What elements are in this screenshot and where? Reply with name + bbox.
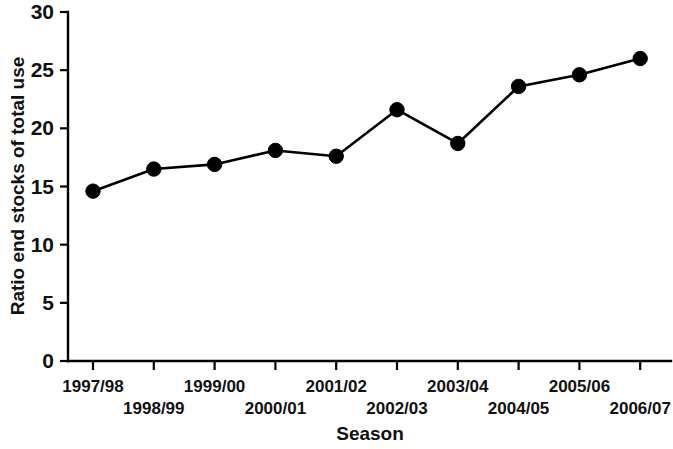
x-axis-title: Season: [336, 423, 404, 444]
y-axis-tick-label: 0: [42, 349, 54, 372]
x-axis-tick-group: [93, 361, 640, 370]
data-point: [390, 103, 404, 117]
x-axis-tick-label: 2004/05: [488, 399, 549, 418]
y-axis-tick-label: 5: [42, 291, 54, 314]
data-point: [329, 149, 343, 163]
data-point-group: [86, 51, 648, 198]
chart-canvas: 051015202530 1997/981998/991999/002000/0…: [0, 0, 673, 449]
x-axis-tick-label: 2003/04: [427, 377, 489, 396]
y-axis-tick-label: 20: [31, 116, 54, 139]
data-point: [451, 136, 465, 150]
y-axis-tick-label: 10: [31, 233, 54, 256]
data-point: [572, 68, 586, 82]
data-point: [207, 157, 221, 171]
x-axis-tick-label: 2001/02: [305, 377, 366, 396]
data-point: [268, 143, 282, 157]
y-axis-tick-label: 30: [31, 0, 54, 23]
x-axis-tick-label: 1999/00: [184, 377, 245, 396]
data-point: [633, 51, 647, 65]
x-axis-tick-label: 2005/06: [549, 377, 610, 396]
data-line: [93, 59, 640, 192]
y-axis-tick-label: 15: [31, 175, 55, 198]
x-axis-tick-label: 2006/07: [609, 399, 670, 418]
x-axis-tick-label: 1998/99: [123, 399, 184, 418]
x-axis-labels: 1997/981998/991999/002000/012001/022002/…: [62, 377, 671, 418]
x-axis-tick-label: 2000/01: [245, 399, 306, 418]
x-axis-tick-label: 1997/98: [62, 377, 123, 396]
data-point: [147, 162, 161, 176]
data-point: [86, 184, 100, 198]
y-axis-tick-label: 25: [31, 58, 55, 81]
y-axis-labels: 051015202530: [31, 0, 55, 372]
line-chart: 051015202530 1997/981998/991999/002000/0…: [0, 0, 673, 449]
x-axis-tick-label: 2002/03: [366, 399, 427, 418]
y-axis-title: Ratio end stocks of total use: [7, 57, 28, 316]
data-point: [511, 79, 525, 93]
